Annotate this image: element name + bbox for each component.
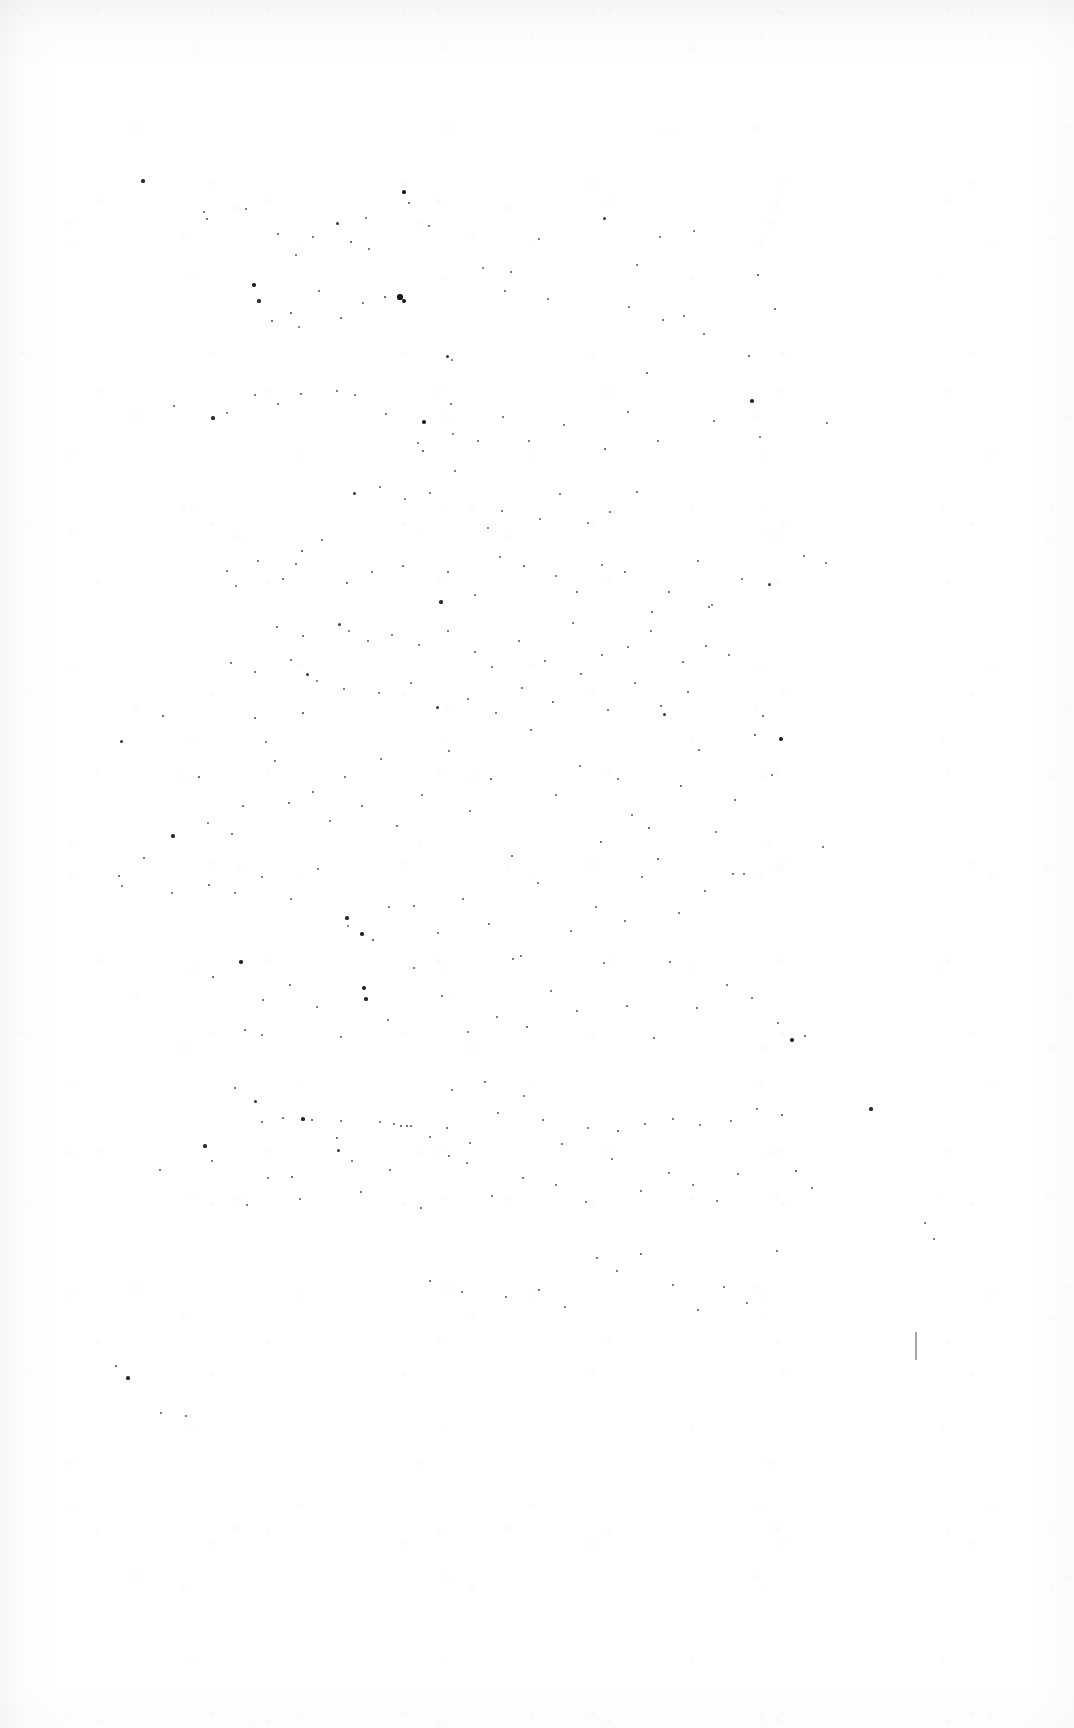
dust-speck	[447, 571, 449, 573]
dust-speck	[482, 267, 484, 269]
dust-speck	[454, 470, 456, 472]
dust-speck	[288, 802, 291, 805]
dust-speck	[726, 984, 728, 986]
dust-speck	[389, 1169, 391, 1171]
dust-speck	[526, 1026, 529, 1029]
dust-speck	[555, 575, 557, 577]
dust-speck	[804, 1035, 807, 1038]
dust-speck	[487, 527, 489, 529]
dust-speck	[418, 644, 420, 646]
dust-speck	[698, 749, 700, 751]
dust-speck	[282, 1117, 284, 1119]
dust-speck	[421, 794, 423, 796]
dust-speck	[538, 1289, 541, 1292]
dust-speck	[585, 1201, 587, 1203]
dust-speck	[511, 855, 514, 858]
dust-speck	[372, 939, 375, 942]
dust-speck	[451, 359, 453, 361]
dust-speck	[756, 1108, 758, 1110]
dust-speck	[697, 560, 699, 562]
dust-speck	[576, 591, 578, 593]
dust-speck	[754, 734, 757, 737]
dust-speck	[497, 1112, 499, 1114]
dust-speck	[360, 932, 364, 936]
dust-speck	[697, 1309, 699, 1311]
dust-speck	[777, 1022, 779, 1024]
dust-speck	[211, 416, 214, 419]
dust-speck	[121, 885, 123, 887]
dust-speck	[302, 712, 305, 715]
dust-speck	[354, 394, 356, 396]
dust-speck	[716, 1200, 718, 1202]
dust-speck	[271, 320, 274, 323]
dust-speck	[448, 750, 450, 752]
dust-speck	[417, 442, 419, 444]
dust-speck	[495, 712, 497, 714]
dust-speck	[234, 1087, 236, 1089]
dust-speck	[644, 1123, 646, 1125]
dust-speck	[344, 776, 346, 778]
dust-speck	[650, 630, 652, 632]
dust-speck	[289, 984, 292, 987]
dust-speck	[640, 1253, 642, 1255]
dust-speck	[362, 986, 366, 990]
dust-speck	[396, 825, 398, 827]
dust-speck	[312, 791, 314, 793]
dust-speck	[439, 600, 442, 603]
dust-speck	[276, 626, 279, 629]
dust-speck	[295, 563, 297, 565]
dust-speck	[576, 1010, 578, 1012]
dust-speck	[924, 1222, 926, 1224]
dust-speck	[290, 898, 292, 900]
dust-speck	[564, 1306, 566, 1308]
faint-smudge-mark: · ····	[660, 128, 680, 135]
dust-speck	[603, 217, 606, 220]
dust-speck	[520, 955, 522, 957]
dust-speck	[779, 737, 783, 741]
dust-speck	[230, 662, 233, 665]
dust-speck	[668, 1172, 670, 1174]
dust-speck	[208, 884, 211, 887]
dust-speck	[338, 623, 341, 626]
dust-speck	[555, 1184, 557, 1186]
dust-speck	[301, 1117, 304, 1120]
dust-speck	[523, 1095, 525, 1097]
dust-speck	[522, 1177, 524, 1179]
dust-speck	[450, 403, 452, 405]
dust-speck	[346, 582, 349, 585]
dust-speck	[547, 298, 549, 300]
dust-speck	[350, 241, 353, 244]
dust-speck	[387, 1019, 389, 1021]
dust-speck	[657, 440, 659, 442]
dust-speck-layer	[0, 0, 1074, 1728]
dust-speck	[502, 416, 504, 418]
dust-speck	[402, 299, 406, 303]
dust-speck	[207, 822, 209, 824]
dust-speck	[340, 1036, 342, 1038]
dust-speck	[933, 1238, 935, 1240]
dust-speck	[640, 1190, 642, 1192]
dust-speck	[811, 1187, 813, 1189]
dust-speck	[226, 570, 228, 572]
dust-speck	[668, 591, 670, 593]
dust-speck	[171, 892, 173, 894]
dust-speck	[746, 1302, 748, 1304]
dust-speck	[345, 916, 348, 919]
dust-speck	[580, 673, 582, 675]
dust-speck	[484, 1081, 486, 1083]
dust-speck	[559, 493, 561, 495]
dust-speck	[641, 876, 643, 878]
dust-speck	[499, 556, 501, 558]
dust-speck	[452, 433, 454, 435]
dust-speck	[446, 1127, 448, 1129]
dust-speck	[353, 492, 356, 495]
dust-speck	[825, 562, 827, 564]
dust-speck	[380, 758, 382, 760]
dust-speck	[616, 1270, 618, 1272]
dust-speck	[699, 1124, 701, 1126]
dust-speck	[402, 190, 406, 194]
dust-speck	[627, 646, 629, 648]
dust-speck	[231, 833, 234, 836]
dust-speck	[672, 1284, 674, 1286]
dust-speck	[385, 413, 387, 415]
